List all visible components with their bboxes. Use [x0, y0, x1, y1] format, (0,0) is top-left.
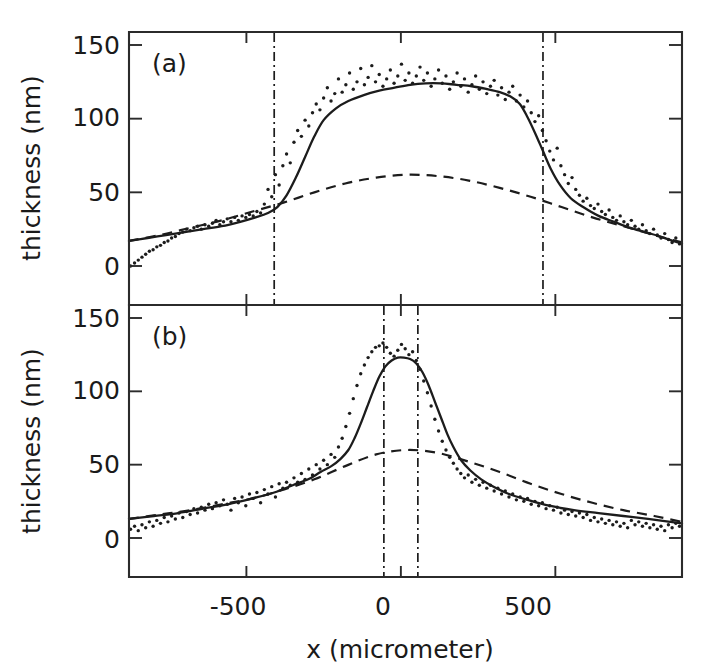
data-point	[552, 508, 555, 511]
data-point	[222, 220, 225, 223]
data-point	[144, 526, 147, 529]
data-point	[607, 519, 610, 522]
data-point	[392, 82, 395, 85]
data-point	[259, 211, 262, 214]
data-point	[567, 513, 570, 516]
data-point	[266, 188, 269, 191]
plot-frame	[129, 305, 682, 577]
panel-b-background-curve	[129, 450, 682, 522]
data-point	[381, 85, 384, 88]
data-point	[296, 129, 299, 132]
data-point	[148, 520, 151, 523]
data-point	[289, 161, 292, 164]
data-point	[352, 397, 355, 400]
data-point	[333, 456, 336, 459]
data-point	[622, 220, 625, 223]
data-point	[433, 418, 436, 421]
data-point	[593, 516, 596, 519]
data-point	[140, 523, 143, 526]
data-point	[300, 135, 303, 138]
data-point	[441, 440, 444, 443]
data-point	[652, 523, 655, 526]
data-point	[422, 79, 425, 82]
data-point	[667, 523, 670, 526]
data-point	[374, 346, 377, 349]
data-point	[507, 90, 510, 93]
data-point	[159, 522, 162, 525]
data-point	[274, 495, 277, 498]
data-point	[188, 513, 191, 516]
data-point	[270, 195, 273, 198]
data-point	[322, 96, 325, 99]
data-point	[459, 472, 462, 475]
data-point	[507, 495, 510, 498]
data-point	[285, 152, 288, 155]
data-point	[385, 77, 388, 80]
data-point	[589, 204, 592, 207]
panel-b-fit-curve	[129, 357, 682, 523]
data-point	[474, 478, 477, 481]
panel-a: (a)	[129, 32, 682, 305]
data-point	[292, 476, 295, 479]
data-point	[277, 183, 280, 186]
data-point	[426, 391, 429, 394]
data-point	[378, 344, 381, 347]
data-point	[448, 88, 451, 91]
data-point	[318, 467, 321, 470]
data-point	[433, 77, 436, 80]
y-tick-label-50-b: 50	[88, 450, 120, 479]
data-point	[396, 349, 399, 352]
data-point	[670, 526, 673, 529]
data-point	[348, 412, 351, 415]
data-point	[340, 90, 343, 93]
data-point	[474, 74, 477, 77]
data-point	[407, 71, 410, 74]
data-point	[518, 93, 521, 96]
data-point	[281, 164, 284, 167]
data-point	[544, 507, 547, 510]
panel-b-tick-marks	[129, 305, 682, 577]
data-point	[570, 176, 573, 179]
data-point	[181, 516, 184, 519]
data-point	[137, 258, 140, 261]
data-point	[255, 491, 258, 494]
data-point	[644, 522, 647, 525]
data-point	[604, 213, 607, 216]
data-point	[263, 488, 266, 491]
data-point	[452, 462, 455, 465]
x-axis-title: x (micrometer)	[306, 635, 494, 664]
data-point	[581, 516, 584, 519]
panel-b-data-dots	[129, 341, 681, 532]
data-point	[370, 64, 373, 67]
data-point	[470, 481, 473, 484]
data-point	[318, 108, 321, 111]
data-point	[355, 384, 358, 387]
data-point	[611, 523, 614, 526]
data-point	[389, 68, 392, 71]
data-point	[214, 501, 217, 504]
plot-frame	[129, 32, 682, 305]
data-point	[355, 80, 358, 83]
data-point	[133, 525, 136, 528]
data-point	[166, 239, 169, 242]
data-point	[637, 520, 640, 523]
data-point	[207, 503, 210, 506]
data-point	[151, 248, 154, 251]
data-point	[174, 235, 177, 238]
data-point	[315, 102, 318, 105]
data-point	[630, 219, 633, 222]
y-tick-label-150-b: 150	[72, 304, 120, 333]
panel-b: (b)	[129, 305, 682, 577]
data-point	[329, 453, 332, 456]
data-point	[544, 139, 547, 142]
data-point	[374, 80, 377, 83]
data-point	[244, 216, 247, 219]
data-point	[467, 473, 470, 476]
data-point	[370, 350, 373, 353]
data-point	[315, 463, 318, 466]
panel-b-y-tick-labels: 150 100 50 0	[72, 304, 120, 554]
data-point	[429, 404, 432, 407]
data-point	[630, 519, 633, 522]
data-point	[170, 236, 173, 239]
data-point	[437, 68, 440, 71]
